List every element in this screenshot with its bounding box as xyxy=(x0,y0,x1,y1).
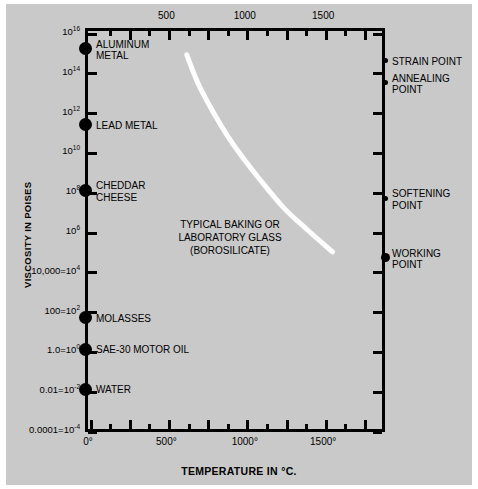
left-marker-dot xyxy=(79,42,92,55)
left-marker-label: WATER xyxy=(96,384,131,396)
right-marker-dot xyxy=(381,253,390,262)
x-axis-top-label: 1000 xyxy=(234,10,256,21)
left-marker-dot xyxy=(79,311,92,324)
left-marker-label: CHEDDAR CHEESE xyxy=(96,180,145,203)
right-marker-label: ANNEALING POINT xyxy=(392,73,450,96)
y-axis-tick-label: 1.0=100 xyxy=(47,344,80,355)
left-marker-dot xyxy=(79,118,92,131)
y-axis-tick-label: 108 xyxy=(66,185,80,196)
y-axis-tick-label: 106 xyxy=(66,225,80,236)
chart-figure: VISCOSITY IN POISES 10161014101210101081… xyxy=(0,0,478,489)
x-axis-bottom-label: 500° xyxy=(156,436,177,447)
left-marker-dot xyxy=(79,184,92,197)
right-marker-label: WORKING POINT xyxy=(392,248,441,271)
left-marker-label: SAE-30 MOTOR OIL xyxy=(96,344,189,356)
x-axis-top-label: 1500 xyxy=(312,10,334,21)
y-axis-tick-label: 100=102 xyxy=(44,305,80,316)
left-marker-label: ALUMINUM METAL xyxy=(96,39,149,62)
x-axis-title: TEMPERATURE IN °C. xyxy=(0,465,478,477)
left-marker-dot xyxy=(79,383,92,396)
right-marker-dot xyxy=(383,196,388,201)
x-axis-bottom-label: 1500° xyxy=(310,436,336,447)
right-marker-dot xyxy=(383,58,388,63)
x-axis-bottom-label: 0° xyxy=(83,436,93,447)
x-axis-bottom-label: 1000° xyxy=(232,436,258,447)
y-axis-tick-label: 0.01=10-2 xyxy=(40,384,80,395)
curve-annotation: TYPICAL BAKING OR LABORATORY GLASS (BORO… xyxy=(150,218,310,257)
y-axis-tick-label: 1014 xyxy=(62,66,80,77)
left-marker-label: MOLASSES xyxy=(96,313,151,325)
x-axis-top-label: 500 xyxy=(158,10,175,21)
y-axis-tick-label: 1010 xyxy=(62,145,80,156)
y-axis-tick-label: 0.0001=10-4 xyxy=(29,424,80,435)
y-axis-tick-label: 1012 xyxy=(62,106,80,117)
left-marker-label: LEAD METAL xyxy=(96,120,158,132)
left-marker-dot xyxy=(79,343,92,356)
y-axis-tick-label: 10,000=104 xyxy=(31,265,80,276)
right-marker-label: STRAIN POINT xyxy=(392,56,462,68)
right-marker-label: SOFTENING POINT xyxy=(392,188,450,211)
right-marker-dot xyxy=(383,80,388,85)
y-axis-tick-label: 1016 xyxy=(62,26,80,37)
